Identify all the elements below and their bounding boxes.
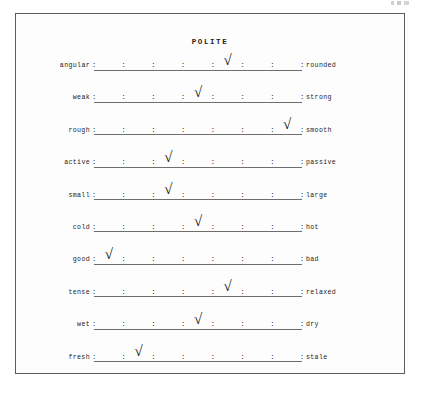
- scale-tick[interactable]: :: [92, 93, 96, 102]
- scale-tick[interactable]: :: [270, 353, 274, 362]
- scale-tick[interactable]: :: [151, 223, 155, 232]
- scale-tick[interactable]: :: [240, 61, 244, 70]
- scale-tick[interactable]: :: [300, 320, 304, 329]
- scale-tick[interactable]: :: [211, 255, 215, 264]
- scale-tick[interactable]: :: [181, 158, 185, 167]
- scale-tick[interactable]: :: [211, 288, 215, 297]
- scale-track[interactable]: ::::::::√: [94, 316, 302, 336]
- scale-track[interactable]: ::::::::√: [94, 122, 302, 142]
- scale-tick[interactable]: :: [151, 255, 155, 264]
- scale-tick[interactable]: :: [240, 255, 244, 264]
- scale-tick[interactable]: :: [211, 126, 215, 135]
- scale-tick[interactable]: :: [211, 61, 215, 70]
- scale-tick[interactable]: :: [122, 320, 126, 329]
- scale-tick[interactable]: :: [300, 191, 304, 200]
- scale-tick[interactable]: :: [92, 191, 96, 200]
- scale-tick[interactable]: :: [181, 320, 185, 329]
- scale-tick[interactable]: :: [270, 223, 274, 232]
- scale-tick[interactable]: :: [300, 158, 304, 167]
- scale-tick[interactable]: :: [122, 191, 126, 200]
- scale-tick[interactable]: :: [151, 158, 155, 167]
- scale-tick[interactable]: :: [211, 353, 215, 362]
- checkmark[interactable]: √: [224, 279, 232, 294]
- scale-tick[interactable]: :: [122, 353, 126, 362]
- scale-tick[interactable]: :: [300, 255, 304, 264]
- scale-tick[interactable]: :: [240, 288, 244, 297]
- scale-tick[interactable]: :: [92, 255, 96, 264]
- scale-tick[interactable]: :: [92, 158, 96, 167]
- scale-tick[interactable]: :: [211, 223, 215, 232]
- scale-tick[interactable]: :: [240, 353, 244, 362]
- scale-tick[interactable]: :: [122, 288, 126, 297]
- scale-tick[interactable]: :: [240, 191, 244, 200]
- checkmark[interactable]: √: [224, 53, 232, 68]
- scale-tick[interactable]: :: [300, 353, 304, 362]
- scale-tick[interactable]: :: [270, 158, 274, 167]
- scale-track[interactable]: ::::::::√: [94, 349, 302, 369]
- scale-tick[interactable]: :: [211, 158, 215, 167]
- scale-tick[interactable]: :: [300, 223, 304, 232]
- scale-tick[interactable]: :: [122, 255, 126, 264]
- checkmark[interactable]: √: [194, 214, 202, 229]
- scale-tick[interactable]: :: [270, 255, 274, 264]
- scale-track[interactable]: ::::::::√: [94, 251, 302, 271]
- checkmark[interactable]: √: [164, 150, 172, 165]
- checkmark[interactable]: √: [194, 312, 202, 327]
- scale-tick[interactable]: :: [300, 288, 304, 297]
- scale-track[interactable]: ::::::::√: [94, 89, 302, 109]
- checkmark[interactable]: √: [105, 247, 113, 262]
- scale-track[interactable]: ::::::::√: [94, 219, 302, 239]
- scale-tick[interactable]: :: [122, 223, 126, 232]
- scale-tick[interactable]: :: [151, 320, 155, 329]
- scale-tick[interactable]: :: [151, 191, 155, 200]
- scale-tick[interactable]: :: [181, 255, 185, 264]
- scale-tick[interactable]: :: [270, 320, 274, 329]
- scale-tick[interactable]: :: [211, 191, 215, 200]
- scale-tick[interactable]: :: [92, 126, 96, 135]
- scale-tick[interactable]: :: [151, 353, 155, 362]
- checkmark[interactable]: √: [194, 85, 202, 100]
- scale-tick[interactable]: :: [181, 223, 185, 232]
- scale-tick[interactable]: :: [92, 223, 96, 232]
- scale-tick[interactable]: :: [270, 191, 274, 200]
- scale-tick[interactable]: :: [92, 61, 96, 70]
- scale-tick[interactable]: :: [300, 93, 304, 102]
- checkmark[interactable]: √: [164, 182, 172, 197]
- scale-tick[interactable]: :: [181, 353, 185, 362]
- scale-tick[interactable]: :: [270, 126, 274, 135]
- scale-track[interactable]: ::::::::√: [94, 154, 302, 174]
- scale-tick[interactable]: :: [181, 93, 185, 102]
- scale-tick[interactable]: :: [270, 288, 274, 297]
- scale-tick[interactable]: :: [240, 320, 244, 329]
- scale-tick[interactable]: :: [270, 61, 274, 70]
- scale-tick[interactable]: :: [181, 126, 185, 135]
- scale-tick[interactable]: :: [240, 223, 244, 232]
- scale-tick[interactable]: :: [300, 126, 304, 135]
- checkmark[interactable]: √: [134, 344, 142, 359]
- scale-track[interactable]: ::::::::√: [94, 57, 302, 77]
- scale-tick[interactable]: :: [122, 126, 126, 135]
- scale-tick[interactable]: :: [240, 93, 244, 102]
- scale-tick[interactable]: :: [300, 61, 304, 70]
- scale-tick[interactable]: :: [122, 93, 126, 102]
- scale-tick[interactable]: :: [151, 93, 155, 102]
- scale-tick[interactable]: :: [240, 126, 244, 135]
- scale-tick[interactable]: :: [151, 288, 155, 297]
- scale-tick[interactable]: :: [122, 158, 126, 167]
- scale-tick[interactable]: :: [181, 288, 185, 297]
- scale-track[interactable]: ::::::::√: [94, 187, 302, 207]
- scale-tick[interactable]: :: [92, 320, 96, 329]
- scale-tick[interactable]: :: [181, 191, 185, 200]
- scale-tick[interactable]: :: [122, 61, 126, 70]
- scale-tick[interactable]: :: [181, 61, 185, 70]
- scale-tick[interactable]: :: [151, 126, 155, 135]
- scale-tick[interactable]: :: [92, 288, 96, 297]
- scale-tick[interactable]: :: [211, 93, 215, 102]
- scale-tick[interactable]: :: [92, 353, 96, 362]
- scale-tick[interactable]: :: [240, 158, 244, 167]
- checkmark[interactable]: √: [283, 117, 291, 132]
- scale-tick[interactable]: :: [270, 93, 274, 102]
- scale-tick[interactable]: :: [151, 61, 155, 70]
- scale-tick[interactable]: :: [211, 320, 215, 329]
- scale-track[interactable]: ::::::::√: [94, 284, 302, 304]
